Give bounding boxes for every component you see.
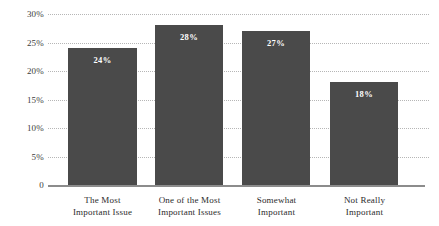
category-label-not-really-important: Not Really Important — [310, 194, 419, 218]
gridline-30 — [48, 14, 429, 15]
y-tick-label-25: 25% — [0, 38, 44, 48]
category-label-line: Important — [310, 206, 419, 218]
y-tick-label-0: 0 — [0, 180, 44, 190]
x-axis-line — [48, 185, 425, 187]
bar-value-label: 28% — [155, 32, 223, 42]
y-tick-label-20: 20% — [0, 66, 44, 76]
bar-value-label: 24% — [68, 55, 137, 65]
gridline-25 — [48, 43, 429, 44]
y-tick-label-5: 5% — [0, 152, 44, 162]
plot-area: 30% 25% 20% 15% 10% 5% 0 24% — [0, 0, 439, 226]
bar-one-of-the-most-important-issues: 28% — [155, 25, 223, 185]
y-tick-label-15: 15% — [0, 95, 44, 105]
y-tick-label-10: 10% — [0, 123, 44, 133]
category-label-line: Not Really — [310, 194, 419, 206]
y-tick-label-30: 30% — [0, 9, 44, 19]
bar-somewhat-important: 27% — [242, 31, 310, 185]
bar-value-label: 18% — [330, 89, 398, 99]
bar-not-really-important: 18% — [330, 82, 398, 185]
bar-the-most-important-issue: 24% — [68, 48, 137, 185]
bar-value-label: 27% — [242, 38, 310, 48]
bar-chart: 30% 25% 20% 15% 10% 5% 0 24% — [0, 0, 439, 226]
